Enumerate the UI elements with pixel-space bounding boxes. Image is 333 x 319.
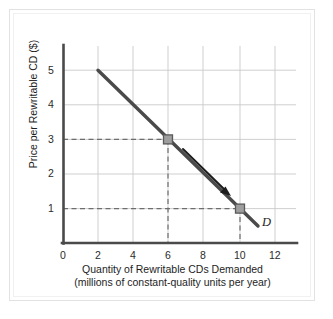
- x-axis-label-line1: Quantity of Rewritable CDs Demanded: [40, 263, 305, 276]
- grid-vertical: [98, 46, 275, 243]
- y-axis-label-text: Price per Rewritable CD ($): [27, 40, 39, 168]
- xtick-label-4: 4: [130, 249, 136, 261]
- xtick-label-0: 0: [60, 249, 66, 261]
- y-axis-label: Price per Rewritable CD ($): [23, 9, 41, 199]
- ytick-label-1: 1: [48, 202, 54, 214]
- movement-along-curve-arrow: [183, 149, 231, 196]
- ytick-label-3: 3: [48, 133, 54, 145]
- ytick-label-5: 5: [48, 64, 54, 76]
- ytick-label-2: 2: [48, 167, 54, 179]
- demand-curve-label: D: [262, 215, 271, 230]
- x-axis-label-line2: (millions of constant-quality units per …: [40, 276, 305, 289]
- point-a-marker: [164, 135, 173, 144]
- xtick-label-12: 12: [269, 249, 281, 261]
- x-axis-label: Quantity of Rewritable CDs Demanded (mil…: [40, 263, 305, 289]
- demand-curve-D: [98, 70, 258, 226]
- xtick-label-10: 10: [234, 249, 246, 261]
- xtick-label-6: 6: [165, 249, 171, 261]
- demand-curve-figure: 5 4 3 2 1 0 2 4 6 8 10 12 Price per Rewr…: [0, 0, 333, 319]
- guide-lines: [63, 139, 240, 243]
- axes: [62, 45, 297, 244]
- xtick-label-2: 2: [95, 249, 101, 261]
- xtick-label-8: 8: [200, 249, 206, 261]
- point-b-marker: [236, 204, 245, 213]
- ytick-label-4: 4: [48, 98, 54, 110]
